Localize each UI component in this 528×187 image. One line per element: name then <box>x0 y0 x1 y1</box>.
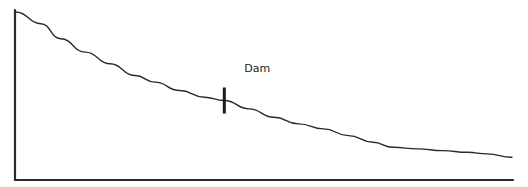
dam-label: Dam <box>244 62 270 75</box>
profile-curve <box>16 12 512 157</box>
diagram-canvas: Dam <box>0 0 528 187</box>
